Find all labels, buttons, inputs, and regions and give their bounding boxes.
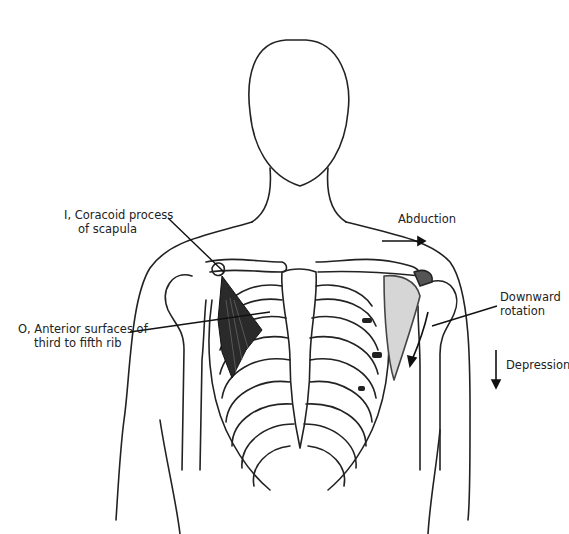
origin-label-line1: O, Anterior surfaces of [18, 322, 148, 336]
downward-rotation-label: Downward rotation [500, 290, 561, 318]
sternum [282, 269, 317, 448]
right-scapula [384, 276, 420, 380]
abduction-label: Abduction [398, 212, 456, 226]
left-humerus [165, 275, 206, 470]
insertion-label-line2: of scapula [64, 222, 173, 236]
insertion-label: I, Coracoid process of scapula [64, 208, 173, 236]
head-outline [249, 40, 349, 186]
insertion-label-line1: I, Coracoid process [64, 208, 173, 222]
insertion-leader [168, 218, 224, 272]
downward-label-line1: Downward [500, 290, 561, 304]
right-body-outline [346, 222, 470, 520]
origin-label-line2: third to fifth rib [18, 336, 148, 350]
downward-label-line2: rotation [500, 304, 561, 318]
anatomy-figure: I, Coracoid process of scapula O, Anteri… [0, 0, 569, 534]
right-ribs [304, 285, 389, 490]
neck-outline [252, 168, 346, 222]
depression-label: Depression [506, 358, 569, 372]
body-line-art [0, 0, 569, 534]
origin-label: O, Anterior surfaces of third to fifth r… [18, 322, 148, 350]
coracoid-process [212, 263, 224, 275]
right-clavicle [316, 259, 420, 276]
right-humerus [418, 281, 457, 470]
